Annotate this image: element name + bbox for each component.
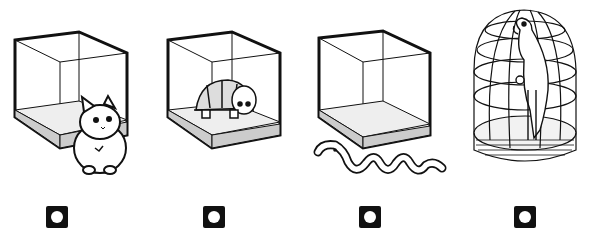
parrot-cage-illustration [460,0,591,190]
snake-tank-illustration [300,0,460,190]
selection-circle-icon [364,211,376,223]
snake-icon [318,145,442,170]
tortoise-tank-illustration [152,0,302,190]
selection-circle-icon [51,211,63,223]
select-tortoise-checkbox[interactable]: Tortoise in tank [203,206,225,228]
glass-tank-icon [319,31,430,148]
select-hamster-checkbox[interactable]: Hamster next to tank [46,206,68,228]
option-panel-parrot: Parrot in birdcage [460,0,591,245]
option-panel-snake: Snake next to tank [300,0,460,245]
option-panel-tortoise: Tortoise in tank [152,0,302,245]
selection-circle-icon [208,211,220,223]
selection-circle-icon [519,211,531,223]
hamster-tank-illustration [0,0,150,190]
select-snake-checkbox[interactable]: Snake next to tank [359,206,381,228]
select-parrot-checkbox[interactable]: Parrot in birdcage [514,206,536,228]
option-panel-hamster: Hamster next to tank [0,0,150,245]
